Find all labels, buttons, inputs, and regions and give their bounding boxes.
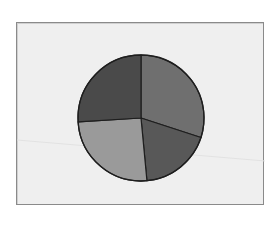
pie-slice-4 xyxy=(78,55,141,122)
pie-chart xyxy=(17,23,265,206)
pie-slice-3 xyxy=(78,118,147,181)
chart-frame xyxy=(16,22,264,205)
